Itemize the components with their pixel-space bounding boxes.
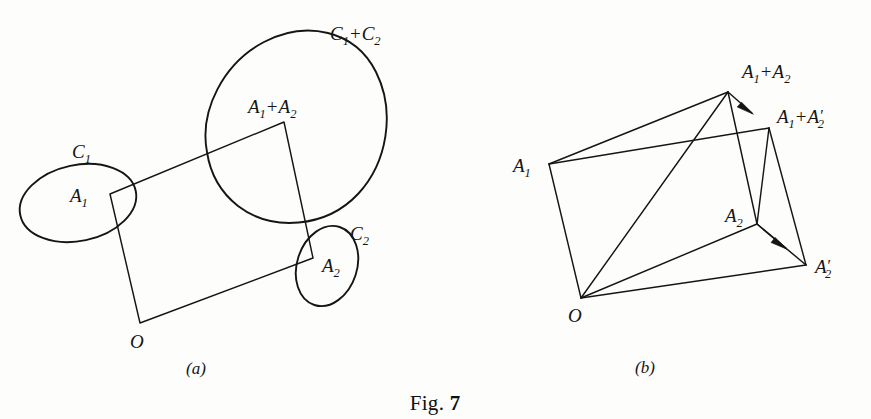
arrow-a2-to-a2prime-shaft <box>757 224 786 248</box>
panel-a-caption: (a) <box>186 359 206 378</box>
label-c2: C2 <box>350 223 369 248</box>
figure-canvas: C1+C2 A1+A2 C1 A1 C2 A2 O (a) A1+A2 A1+A… <box>0 0 871 419</box>
panel-b: A1+A2 A1+A′2 A1 A2 A′2 O (b) <box>511 61 831 377</box>
edge-O-A1 <box>549 164 581 298</box>
figure-caption: Fig. 7 <box>410 391 461 415</box>
label-a2-b: A2 <box>723 205 743 230</box>
label-a1-plus-a2-prime: A1+A′2 <box>775 106 824 131</box>
label-a1-plus-a2-b: A1+A2 <box>740 61 790 86</box>
edge-A1A2prime-A2 <box>757 128 769 224</box>
edge-A1-A1A2prime <box>549 128 769 164</box>
label-a1-plus-a2: A1+A2 <box>246 96 296 121</box>
edge-O-A2prime <box>581 265 806 298</box>
edge-A1-A1A2 <box>549 92 728 164</box>
c1-plus-c2-region-curve <box>206 31 387 223</box>
label-a2-prime: A′2 <box>813 256 831 281</box>
label-a2: A2 <box>320 255 340 280</box>
panel-a: C1+C2 A1+A2 C1 A1 C2 A2 O (a) <box>12 23 386 378</box>
label-a1-b: A1 <box>511 155 531 180</box>
edge-A1A2prime-A2prime <box>769 128 806 265</box>
figure-caption-group: Fig. 7 <box>410 391 461 415</box>
label-c1-plus-c2: C1+C2 <box>330 23 381 48</box>
label-origin-a: O <box>130 331 144 352</box>
label-a1: A1 <box>68 185 88 210</box>
panel-b-caption: (b) <box>635 358 655 377</box>
panel-b-edges <box>549 92 806 298</box>
label-c1: C1 <box>72 141 91 166</box>
label-origin-b: O <box>568 305 582 326</box>
figure-root: C1+C2 A1+A2 C1 A1 C2 A2 O (a) A1+A2 A1+A… <box>0 0 871 419</box>
